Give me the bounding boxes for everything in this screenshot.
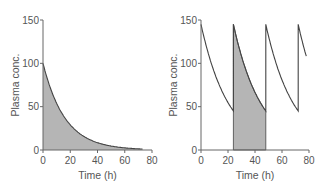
y-tick-label: 100 [180,58,197,69]
repeated-dose-chart: 050100150020406080Time (h)Plasma conc. [167,15,315,182]
y-tick-label: 150 [22,15,39,26]
x-tick-label: 40 [249,155,261,166]
x-tick-label: 80 [303,155,315,166]
x-axis-label: Time (h) [236,169,275,181]
x-tick-label: 0 [198,155,204,166]
x-tick-label: 20 [65,155,77,166]
x-tick-label: 80 [146,155,158,166]
x-tick-label: 60 [276,155,288,166]
y-axis-label: Plasma conc. [9,53,21,116]
y-axis-label: Plasma conc. [167,53,179,116]
x-axis-label: Time (h) [78,169,117,181]
y-tick-label: 0 [33,145,39,156]
single-dose-chart: 050100150020406080Time (h)Plasma conc. [9,15,158,182]
charts-canvas: 050100150020406080Time (h)Plasma conc. 0… [0,0,332,191]
y-tick-label: 150 [180,15,197,26]
y-tick-label: 0 [191,145,197,156]
x-tick-label: 20 [222,155,234,166]
y-tick-label: 50 [186,101,198,112]
x-tick-label: 40 [92,155,104,166]
x-tick-label: 60 [119,155,131,166]
y-tick-label: 100 [22,58,39,69]
y-tick-label: 50 [28,101,40,112]
x-tick-label: 0 [40,155,46,166]
